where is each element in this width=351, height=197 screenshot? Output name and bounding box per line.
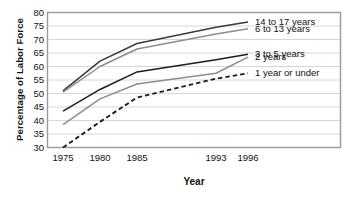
x-tick-label: 1980 bbox=[89, 152, 110, 163]
x-tick-label: 1985 bbox=[126, 152, 147, 163]
series-label-3: 2 years bbox=[255, 51, 286, 62]
series-line-2 bbox=[63, 54, 248, 111]
x-tick-label: 1993 bbox=[205, 152, 226, 163]
series-label-4: 1 year or under bbox=[255, 67, 319, 78]
chart-container: Percentage of Labor Force 80757065605550… bbox=[0, 0, 351, 197]
series-label-1: 6 to 13 years bbox=[255, 23, 310, 34]
series-line-1 bbox=[63, 29, 248, 92]
x-tick-label: 1975 bbox=[52, 152, 73, 163]
x-axis-title: Year bbox=[47, 176, 341, 187]
x-tick-label: 1996 bbox=[237, 152, 258, 163]
series-line-4 bbox=[63, 73, 248, 147]
series-line-3 bbox=[63, 57, 248, 125]
